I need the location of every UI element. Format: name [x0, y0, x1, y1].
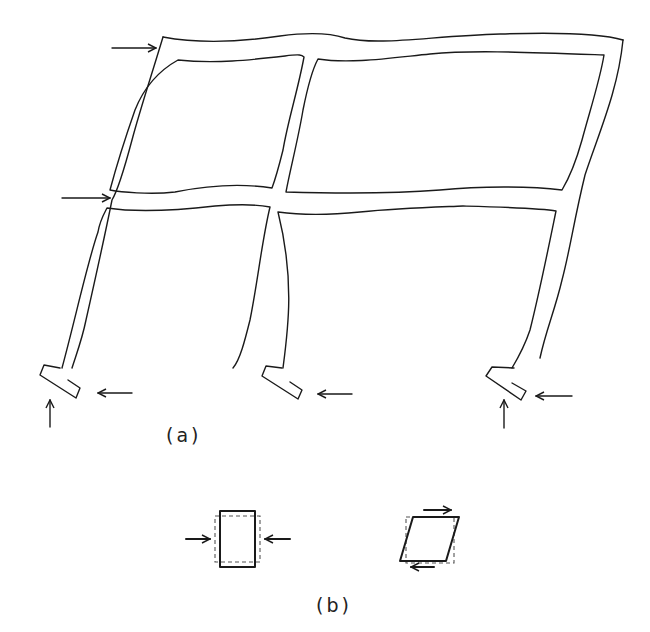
- compression-element: [186, 511, 290, 567]
- panel-bottom-right-outline: [278, 206, 556, 368]
- deformed-frame: [62, 33, 623, 368]
- footing-right: [486, 367, 526, 400]
- structural-frame-diagram: [0, 0, 650, 632]
- panel-top-left: [110, 55, 304, 193]
- panel-a-label: (a): [166, 424, 201, 446]
- roof-beam-top-edge: [163, 33, 623, 41]
- panel-b-label: (b): [316, 594, 352, 616]
- left-column-outer-edge: [72, 37, 163, 368]
- footing-middle: [262, 366, 302, 399]
- shear-element: [400, 510, 459, 567]
- footing-left: [40, 365, 80, 398]
- panel-top-right: [286, 52, 604, 193]
- right-column-outer-edge: [540, 40, 623, 358]
